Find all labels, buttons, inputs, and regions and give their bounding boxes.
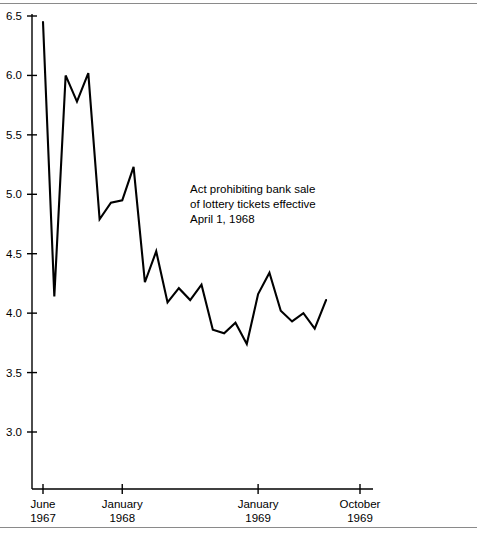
act-note-line-1: Act prohibiting bank sale [190, 183, 315, 195]
y-tick-label-5.5: 5.5 [6, 129, 22, 141]
x-tick-label-month-january-1968: January [102, 498, 143, 510]
line-chart: 6.56.05.55.04.54.03.53.0 June1967January… [0, 0, 477, 533]
y-tick-label-5.0: 5.0 [6, 188, 22, 200]
y-tick-label-6.5: 6.5 [6, 10, 22, 22]
y-tick-label-6.0: 6.0 [6, 69, 22, 81]
y-tick-label-4.5: 4.5 [6, 248, 22, 260]
y-axis-tick-labels: 6.56.05.55.04.54.03.53.0 [6, 10, 22, 438]
x-tick-label-year-october-1969: 1969 [347, 512, 373, 524]
x-tick-label-year-june-1967: 1967 [30, 512, 56, 524]
act-note-line-2: of lottery tickets effective [190, 198, 316, 210]
annotation-act-note: Act prohibiting bank saleof lottery tick… [190, 183, 316, 225]
x-tick-label-year-january-1969: 1969 [245, 512, 271, 524]
y-tick-label-4.0: 4.0 [6, 307, 22, 319]
y-tick-label-3.5: 3.5 [6, 367, 22, 379]
x-tick-label-month-october-1969: October [340, 498, 381, 510]
chart-page: 6.56.05.55.04.54.03.53.0 June1967January… [0, 0, 477, 533]
x-tick-label-year-january-1968: 1968 [109, 512, 135, 524]
x-tick-label-month-june-1967: June [31, 498, 56, 510]
y-tick-label-3.0: 3.0 [6, 426, 22, 438]
x-tick-label-month-january-1969: January [238, 498, 279, 510]
act-note-line-3: April 1, 1968 [190, 213, 255, 225]
x-axis-tick-labels: June1967January1968January1969October196… [30, 498, 380, 524]
